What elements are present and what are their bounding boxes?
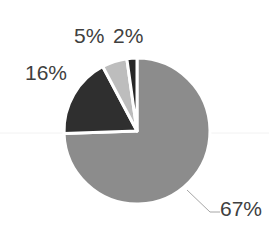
data-label-2: 2% xyxy=(113,25,143,46)
pie-slices xyxy=(64,58,210,204)
data-label-67: 67% xyxy=(220,198,262,219)
data-label-5: 5% xyxy=(74,25,104,46)
data-label-16: 16% xyxy=(25,62,67,83)
leader-line-67 xyxy=(187,190,220,212)
